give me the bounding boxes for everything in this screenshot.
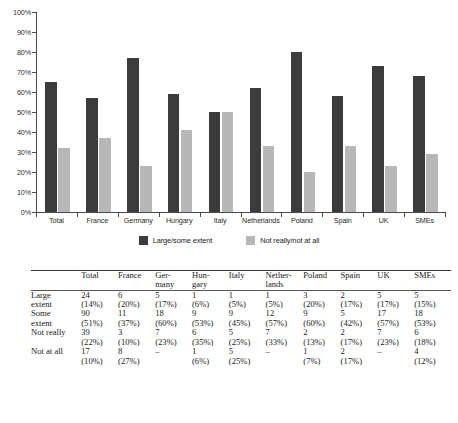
bar [181,130,193,212]
bar [332,96,344,212]
y-axis-tick-label: 50% [17,108,31,117]
x-axis-tick [404,212,405,217]
bar-group [372,12,397,212]
x-axis-tick-label: Germany [124,216,153,225]
table-cell: 7(33%) [266,328,304,347]
bar-group [250,12,275,212]
y-axis-tick [32,52,36,53]
table-cell-percent: (35%) [192,338,229,347]
bar-group [291,12,316,212]
y-axis-tick-label: 30% [17,148,31,157]
table-header: TotalFranceGer-manyHun-garyItalyNether-l… [31,271,451,291]
table-cell: 2(17%) [341,347,378,366]
table-cell: 6(35%) [192,328,229,347]
x-axis-tick [36,212,37,217]
table-body: Largeextent24(14%)6(20%)5(17%)1(6%)1(5%)… [31,290,451,366]
y-axis-tick-label: 60% [17,88,31,97]
table-cell: 1(6%) [192,347,229,366]
y-axis-tick-label: 70% [17,68,31,77]
table-row-header: Not at all [31,347,81,366]
x-axis-tick [322,212,323,217]
table-cell-percent: (57%) [266,319,304,328]
bar [58,148,70,212]
table-column-header-line: lands [266,280,304,289]
table-cell-percent: (12%) [414,357,451,366]
bar [413,76,425,212]
y-axis-tick [32,172,36,173]
table-column-header-line: SMEs [414,271,451,280]
bar [345,146,357,212]
table-column-header: Italy [229,271,266,291]
table-column-header-line: Spain [341,271,378,280]
x-axis-tick-label: Poland [291,216,313,225]
table-cell: 6(20%) [118,290,155,309]
table-cell: 5(42%) [341,309,378,328]
table-cell-percent: (53%) [414,319,451,328]
table-column-header: Spain [341,271,378,291]
table-cell: 5(17%) [377,290,414,309]
bar [168,94,180,212]
bar-group [86,12,111,212]
table-cell-percent: (17%) [341,300,378,309]
table-cell-percent: (60%) [303,319,340,328]
table-cell: – [266,347,304,366]
table-cell: 9(45%) [229,309,266,328]
table-cell: 5(15%) [414,290,451,309]
bar [250,88,262,212]
x-axis-tick [77,212,78,217]
bar [127,58,139,212]
y-axis-tick-label: 80% [17,48,31,57]
y-axis-tick-label: 90% [17,28,31,37]
x-axis-tick [159,212,160,217]
table-cell: 4(12%) [414,347,451,366]
table-cell-percent: (27%) [118,357,155,366]
table-cell: 18(53%) [414,309,451,328]
table-column-header: Total [81,271,118,291]
x-axis-tick-label: UK [379,216,389,225]
table-row-header-line: Not at all [31,346,63,356]
table-column-header-line: France [118,271,155,280]
bar [45,82,57,212]
table-row: Someextent90(51%)11(37%)18(60%)9(53%)9(4… [31,309,451,328]
table-cell-percent: (6%) [192,300,229,309]
table-row-header: Someextent [31,309,81,328]
table-cell: 9(60%) [303,309,340,328]
table-column-header-line: gary [192,280,229,289]
x-axis-tick [281,212,282,217]
table-cell-percent: (23%) [377,338,414,347]
table-header-row: TotalFranceGer-manyHun-garyItalyNether-l… [31,271,451,291]
table-cell: 5(25%) [229,347,266,366]
table-cell: 7(23%) [155,328,192,347]
x-axis-tick [118,212,119,217]
table-cell: 1(5%) [229,290,266,309]
table-cell-percent: (25%) [229,357,266,366]
x-axis-tick [200,212,201,217]
table-cell-percent: (23%) [155,338,192,347]
plot-area: 100%90%80%70%60%50%40%30%20%10%0% TotalF… [36,12,446,212]
table-cell: – [377,347,414,366]
table-cell-percent: (17%) [341,357,378,366]
x-axis-tick [445,212,446,217]
dark-swatch-icon [139,236,148,245]
bar-group [127,12,152,212]
y-axis-tick [32,132,36,133]
bar-group [413,12,438,212]
table-cell: – [155,347,192,366]
table-cell-count: – [377,347,414,356]
bar-group [168,12,193,212]
table-cell: 17(57%) [377,309,414,328]
x-axis-tick-label: France [86,216,108,225]
table-column-header: Ger-many [155,271,192,291]
y-axis-tick [32,32,36,33]
table-row: Not really39(22%)3(10%)7(23%)6(35%)5(25%… [31,328,451,347]
table-cell-percent: (25%) [229,338,266,347]
bar-chart: 100%90%80%70%60%50%40%30%20%10%0% TotalF… [0,0,458,262]
table-corner-cell [31,271,81,291]
legend-item-not-really-not-at-all: Not really/not at all [246,236,319,245]
table-column-header: Hun-gary [192,271,229,291]
table-cell: 2(17%) [341,290,378,309]
table-column-header: SMEs [414,271,451,291]
table-column-header: UK [377,271,414,291]
bar-group [209,12,234,212]
table-cell: 90(51%) [81,309,118,328]
